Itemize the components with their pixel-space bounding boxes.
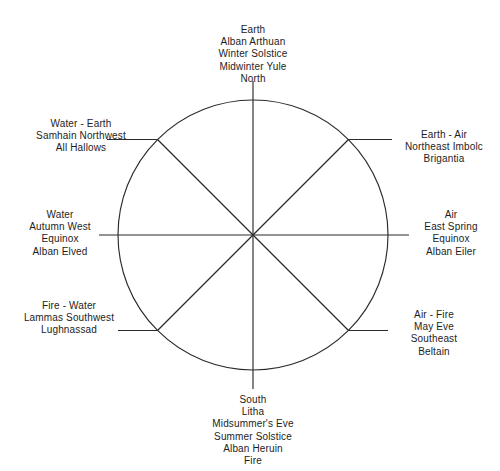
spoke-label-west: Water Autumn West Equinox Alban Elved bbox=[6, 209, 114, 258]
spoke-label-northwest: Water - Earth Samhain Northwest All Hall… bbox=[22, 118, 140, 155]
spoke-label-southeast: Air - Fire May Eve Southeast Beltain bbox=[382, 309, 486, 358]
spoke-label-east: Air East Spring Equinox Alban Eiler bbox=[404, 209, 498, 258]
spoke-label-south: South Litha Midsummer's Eve Summer Solst… bbox=[183, 394, 323, 467]
spoke-label-northeast: Earth - Air Northeast Imbolc Brigantia bbox=[388, 129, 500, 166]
spoke-label-north: Earth Alban Arthuan Winter Solstice Midw… bbox=[183, 24, 323, 85]
diagram-canvas: Earth Alban Arthuan Winter Solstice Midw… bbox=[0, 0, 500, 471]
spoke-label-southwest: Fire - Water Lammas Southwest Lughnassad bbox=[8, 300, 130, 337]
